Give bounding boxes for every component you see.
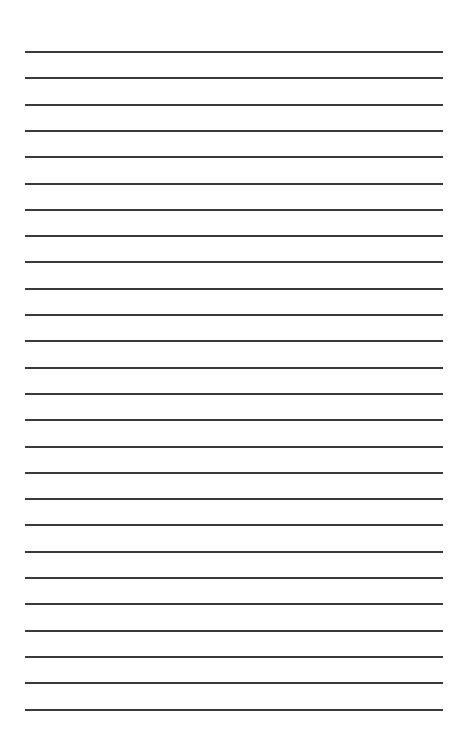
ruled-line xyxy=(25,183,443,185)
ruled-line xyxy=(25,393,443,395)
ruled-line xyxy=(25,288,443,290)
ruled-line xyxy=(25,156,443,158)
ruled-line xyxy=(25,551,443,553)
ruled-line xyxy=(25,367,443,369)
ruled-line xyxy=(25,682,443,684)
ruled-line xyxy=(25,314,443,316)
ruled-line xyxy=(25,656,443,658)
ruled-line xyxy=(25,130,443,132)
ruled-line xyxy=(25,261,443,263)
ruled-line xyxy=(25,524,443,526)
ruled-line xyxy=(25,446,443,448)
ruled-line xyxy=(25,472,443,474)
ruled-line xyxy=(25,577,443,579)
ruled-line xyxy=(25,498,443,500)
ruled-line xyxy=(25,603,443,605)
lined-paper-page xyxy=(0,0,467,747)
ruled-line xyxy=(25,235,443,237)
ruled-line xyxy=(25,709,443,711)
ruled-line xyxy=(25,340,443,342)
ruled-line xyxy=(25,104,443,106)
ruled-line xyxy=(25,209,443,211)
ruled-line xyxy=(25,630,443,632)
ruled-line xyxy=(25,419,443,421)
ruled-line xyxy=(25,51,443,53)
ruled-line xyxy=(25,77,443,79)
